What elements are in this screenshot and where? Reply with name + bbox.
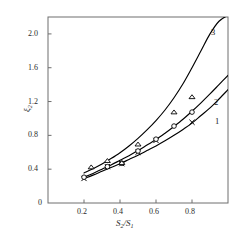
x-tick-label: 0.4 [113,207,123,216]
y-tick-label: 2.0 [28,29,38,38]
x-axis-label-subscript2: 1 [131,223,134,229]
axis-ticks [48,34,192,203]
x-tick-label: 0.6 [149,207,159,216]
x-tick-label: 0.2 [77,207,87,216]
curve-label-2: 2 [214,97,218,107]
y-tick-label: 0.8 [28,130,38,139]
y-tick-label: 0.4 [28,164,38,173]
figure-chart: 0 0.4 0.8 1.2 1.6 2.0 0.2 0.4 0.6 0.8 ξ2… [0,0,244,246]
y-tick-label: 1.6 [28,63,38,72]
y-axis-label: ξ2 [22,105,33,112]
data-curves [84,15,228,178]
curve-3 [84,15,228,173]
curve-label-1: 1 [215,116,219,126]
y-axis-label-subscript: 2 [27,105,33,108]
plot-frame [48,17,228,203]
x-axis-label: S2/S1 [116,218,134,229]
curve-label-3: 3 [211,27,215,37]
x-tick-label: 0.8 [185,207,195,216]
y-tick-label: 0 [38,198,42,207]
y-axis-label-base: ξ [22,108,32,112]
